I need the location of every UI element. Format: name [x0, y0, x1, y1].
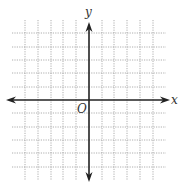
coordinate-plane: y x O [0, 0, 182, 184]
origin-label: O [77, 102, 87, 116]
x-axis-label: x [171, 93, 178, 107]
axes [6, 22, 170, 182]
y-axis-label: y [84, 5, 92, 19]
